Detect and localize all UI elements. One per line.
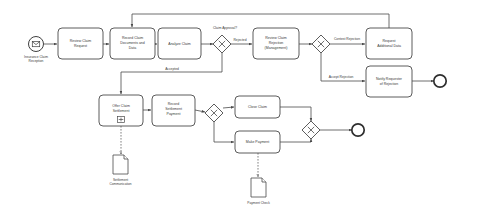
- flow-label-contest-rejection: Contest Rejection: [334, 37, 360, 41]
- svg-text:Additional Data: Additional Data: [377, 44, 401, 48]
- svg-text:Offer Claim: Offer Claim: [112, 104, 130, 108]
- end-event-closed[interactable]: [352, 124, 364, 136]
- task-notify-requester-rejection[interactable]: Notify Requester of Rejection: [366, 66, 412, 97]
- task-review-claim-rejection[interactable]: Review Claim Rejection (Management): [253, 28, 299, 59]
- task-record-settlement-payment[interactable]: Record Settlement Payment: [152, 95, 195, 126]
- svg-text:Close Claim: Close Claim: [248, 105, 267, 109]
- task-request-additional-data[interactable]: Request Additional Data: [366, 28, 412, 59]
- gateway-claim-approval-label: Claim Approval?: [213, 26, 237, 30]
- svg-text:of Rejection: of Rejection: [380, 82, 399, 86]
- svg-text:Request: Request: [382, 39, 395, 43]
- data-object-settlement-communication-label-2: Communication: [109, 182, 131, 186]
- svg-text:Review Claim: Review Claim: [70, 39, 91, 43]
- gateway-rejection-decision[interactable]: [312, 35, 330, 53]
- task-make-payment[interactable]: Make Payment: [235, 131, 280, 153]
- svg-text:Notify Requester: Notify Requester: [376, 77, 403, 81]
- task-close-claim[interactable]: Close Claim: [235, 96, 280, 118]
- flow-split-to-make-payment: [214, 122, 234, 142]
- data-object-payment-check-label: Payment Check: [247, 201, 270, 205]
- flow-label-accept-rejection: Accept Rejection: [329, 75, 354, 79]
- flow-label-accepted: Accepted: [165, 67, 179, 71]
- svg-text:Settlement: Settlement: [113, 109, 130, 113]
- gateway-settlement-merge[interactable]: [302, 121, 320, 139]
- flow-split-to-close-claim: [223, 107, 234, 108]
- gateway-settlement-split[interactable]: [205, 104, 223, 122]
- flow-request-data-loop-back: [132, 14, 389, 28]
- svg-text:Analyze Claim: Analyze Claim: [168, 42, 190, 46]
- svg-text:Documents and: Documents and: [120, 41, 145, 45]
- task-analyze-claim[interactable]: Analyze Claim: [158, 28, 201, 59]
- svg-text:Record Claim: Record Claim: [122, 36, 143, 40]
- task-offer-claim-settlement[interactable]: Offer Claim Settlement: [99, 95, 143, 126]
- flow-make-payment-to-merge: [280, 139, 311, 142]
- data-object-payment-check[interactable]: Payment Check: [247, 178, 270, 205]
- bpmn-diagram-canvas: Insurance Claim Reception Review Claim R…: [0, 0, 477, 221]
- svg-text:(Management): (Management): [265, 46, 288, 50]
- svg-text:Make Payment: Make Payment: [246, 140, 269, 144]
- svg-text:Data: Data: [129, 46, 136, 50]
- end-event-rejection[interactable]: [434, 75, 446, 87]
- start-event[interactable]: Insurance Claim Reception: [24, 37, 48, 64]
- svg-text:Settlement: Settlement: [165, 107, 182, 111]
- flow-close-claim-to-merge: [280, 107, 311, 121]
- data-object-settlement-communication[interactable]: Settlement Communication: [109, 155, 131, 186]
- task-review-claim-request[interactable]: Review Claim Request: [58, 28, 103, 59]
- svg-text:Payment: Payment: [167, 112, 181, 116]
- flow-record-payment-to-split: [195, 110, 205, 112]
- task-record-claim-documents[interactable]: Record Claim Documents and Data: [110, 28, 155, 59]
- svg-text:Record: Record: [168, 102, 179, 106]
- svg-text:Request: Request: [74, 44, 87, 48]
- svg-text:Rejection: Rejection: [269, 41, 284, 45]
- flow-label-rejected: Rejected: [233, 38, 246, 42]
- svg-text:Review Claim: Review Claim: [265, 36, 286, 40]
- start-event-label-line2: Reception: [29, 59, 44, 63]
